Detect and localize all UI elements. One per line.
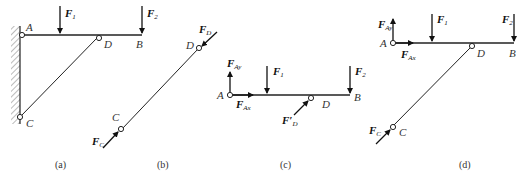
force-FC-arrow: [103, 132, 118, 148]
label-D: D: [185, 39, 194, 51]
force-FDprime-arrow: [294, 101, 308, 115]
pin-A: [390, 40, 395, 45]
caption-b: (b): [157, 159, 169, 171]
label-FAx: FAx: [235, 98, 252, 112]
rod-CD: [122, 49, 198, 129]
pin-D: [96, 35, 101, 40]
caption-c: (c): [280, 159, 291, 171]
free-body-diagram-figure: A D B C F1 F2 (a) C D FC FD (b) A D B FA…: [0, 0, 525, 190]
label-D: D: [476, 47, 485, 59]
label-F2: F2: [354, 65, 366, 79]
pin-C: [118, 126, 123, 131]
label-F1: F1: [436, 13, 448, 27]
panel-d: A D B C FAy FAx F1 F2 FC (d): [368, 13, 516, 171]
label-C: C: [26, 117, 34, 129]
label-A: A: [25, 21, 33, 33]
panel-a: A D B C F1 F2 (a): [11, 6, 158, 171]
label-C: C: [112, 111, 120, 123]
label-D: D: [103, 38, 112, 50]
caption-d: (d): [459, 159, 471, 171]
pin-C: [17, 114, 22, 119]
label-F2: F2: [146, 7, 158, 21]
pin-D: [469, 43, 474, 48]
panel-c: A D B FAy FAx F1 F2 F′D (c): [216, 57, 366, 171]
label-FAy: FAy: [226, 57, 242, 71]
label-FC: FC: [368, 124, 381, 138]
label-F1: F1: [64, 7, 76, 21]
label-FC: FC: [91, 135, 104, 149]
wall-hatch: [11, 26, 20, 124]
rod-CD: [21, 38, 97, 116]
label-C: C: [399, 126, 407, 138]
label-FD: FD: [198, 23, 211, 37]
label-D: D: [321, 98, 330, 110]
label-B: B: [136, 38, 143, 50]
label-FAx: FAx: [400, 48, 417, 62]
label-FDprime: F′D: [281, 114, 298, 128]
label-F1: F1: [272, 65, 284, 79]
label-A: A: [216, 89, 224, 101]
caption-a: (a): [55, 159, 66, 171]
label-FAy: FAy: [377, 18, 393, 32]
label-F2: F2: [501, 13, 513, 27]
pin-A: [227, 92, 232, 97]
pin-A: [19, 32, 24, 37]
label-B: B: [509, 47, 516, 59]
pin-D: [196, 45, 201, 50]
pin-D: [308, 95, 313, 100]
label-B: B: [354, 91, 361, 103]
label-A: A: [379, 37, 387, 49]
pin-C: [390, 124, 395, 129]
